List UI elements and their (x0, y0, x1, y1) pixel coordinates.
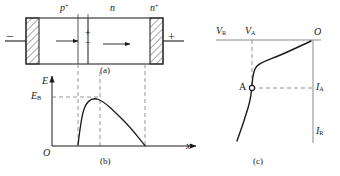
field-profile-curve (78, 99, 145, 146)
terminal-positive-label: + (168, 31, 175, 43)
caption-c: (c) (253, 157, 263, 166)
region-label-p-plus: p+ (60, 3, 69, 13)
iv-characteristic-curve (237, 41, 311, 141)
caption-b: (b) (100, 157, 111, 166)
panel-a-device (5, 14, 184, 146)
point-label-a: A (239, 82, 246, 92)
device-body (26, 18, 163, 64)
region-label-n: n (110, 3, 115, 13)
junction-minus-sign: − (85, 38, 91, 48)
region-label-n-plus: n+ (150, 3, 159, 13)
figure-container: p+ n n+ − + + − (a) E EB O x (b) VR VA O… (0, 0, 340, 176)
axis-label-va: VA (245, 26, 256, 37)
axis-label-ir: IR (316, 126, 323, 137)
origin-label-b: O (43, 148, 50, 158)
panel-b-field-plot (52, 76, 196, 146)
origin-label-c: O (314, 27, 321, 37)
panel-c-iv-plot (216, 40, 321, 143)
point-a-marker (249, 85, 254, 90)
axis-label-vr: VR (216, 26, 226, 37)
tick-label-eb: EB (31, 91, 41, 102)
left-contact-hatched (26, 18, 39, 64)
axis-label-x: x (186, 141, 190, 151)
axis-label-e: E (42, 76, 48, 86)
caption-a: (a) (100, 66, 110, 75)
terminal-negative-label: − (6, 30, 13, 43)
figure-svg (0, 0, 340, 176)
right-contact-hatched (150, 18, 163, 64)
axis-label-ia: IA (316, 82, 324, 93)
